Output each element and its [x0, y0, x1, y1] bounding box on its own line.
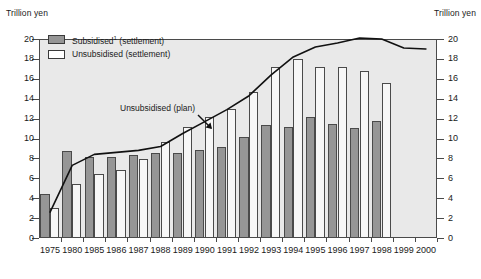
y-axis-label-left: 16 — [10, 74, 34, 83]
y-axis-label-right: 10 — [448, 134, 472, 143]
bar-unsubsidised — [360, 71, 369, 238]
x-axis-tick — [371, 238, 372, 242]
bar-subsidised — [85, 157, 94, 238]
legend-swatch-icon — [48, 35, 65, 44]
bar-subsidised — [328, 124, 337, 238]
bar-unsubsidised — [271, 67, 280, 238]
y-axis-tick-right — [437, 39, 444, 40]
plan-line-annotation: Unsubsidised (plan) — [120, 103, 195, 113]
y-axis-tick-right — [437, 99, 444, 100]
bar-unsubsidised — [139, 159, 148, 238]
y-axis-tick-right — [437, 139, 444, 140]
y-axis-label-left: 6 — [10, 174, 34, 183]
legend-swatch-icon — [48, 50, 65, 59]
y-axis-label-right: 8 — [448, 154, 472, 163]
legend-item-label: Subsidised1 (settlement) — [72, 34, 164, 46]
y-axis-label-left: 0 — [10, 234, 34, 243]
y-axis-label-left: 4 — [10, 194, 34, 203]
bar-subsidised — [151, 153, 160, 238]
bar-subsidised — [107, 157, 116, 238]
x-axis-tick — [127, 238, 128, 242]
bar-unsubsidised — [227, 109, 236, 238]
x-axis-tick — [415, 238, 416, 242]
y-axis-label-right: 20 — [448, 35, 472, 44]
y-axis-label-left: 2 — [10, 214, 34, 223]
y-axis-label-left: 8 — [10, 154, 34, 163]
y-axis-label-right: 6 — [448, 174, 472, 183]
x-axis-tick — [194, 238, 195, 242]
left-axis-unit-label: Trillion yen — [6, 8, 48, 18]
bar-subsidised — [372, 121, 381, 238]
right-axis-unit-label: Trillion yen — [434, 8, 476, 18]
y-axis-tick-right — [437, 158, 444, 159]
y-axis-label-right: 4 — [448, 194, 472, 203]
bar-unsubsidised — [183, 127, 192, 238]
y-axis-label-right: 16 — [448, 74, 472, 83]
bar-subsidised — [217, 147, 226, 238]
x-axis-tick — [216, 238, 217, 242]
x-axis-tick — [437, 238, 438, 242]
x-axis-tick — [238, 238, 239, 242]
x-axis-label: 2000 — [412, 245, 440, 255]
x-axis-tick — [282, 238, 283, 242]
legend-item[interactable]: Unsubsidised (settlement) — [48, 48, 170, 61]
legend-item[interactable]: Subsidised1 (settlement) — [48, 33, 170, 46]
y-axis-tick-right — [437, 178, 444, 179]
bar-subsidised — [284, 127, 293, 238]
legend-item-label: Unsubsidised (settlement) — [72, 50, 170, 59]
y-axis-label-right: 2 — [448, 214, 472, 223]
bar-unsubsidised — [382, 83, 391, 238]
plan-annotation-arrow-icon — [196, 113, 218, 135]
y-axis-label-right: 14 — [448, 94, 472, 103]
bar-unsubsidised — [161, 142, 170, 238]
bar-subsidised — [239, 137, 248, 238]
y-axis-label-left: 20 — [10, 35, 34, 44]
y-axis-tick-right — [437, 218, 444, 219]
y-axis-label-right: 12 — [448, 114, 472, 123]
x-axis-tick — [349, 238, 350, 242]
bar-subsidised — [173, 153, 182, 238]
legend-footnote-marker: 1 — [114, 35, 117, 41]
bar-subsidised — [40, 194, 49, 238]
x-axis-tick — [304, 238, 305, 242]
bar-unsubsidised — [293, 59, 302, 238]
x-axis-tick — [150, 238, 151, 242]
bar-unsubsidised — [72, 184, 81, 238]
bar-unsubsidised — [338, 67, 347, 238]
x-axis-tick — [172, 238, 173, 242]
y-axis-label-left: 18 — [10, 54, 34, 63]
x-axis-tick — [83, 238, 84, 242]
y-axis-tick-right — [437, 238, 444, 239]
y-axis-label-right: 18 — [448, 54, 472, 63]
bar-subsidised — [350, 128, 359, 238]
bar-subsidised — [306, 117, 315, 238]
x-axis-tick — [61, 238, 62, 242]
bar-subsidised — [62, 151, 71, 238]
chart-legend: Subsidised1 (settlement)Unsubsidised (se… — [48, 33, 170, 63]
y-axis-label-left: 10 — [10, 134, 34, 143]
chart-container: Trillion yen Trillion yen 00224466881010… — [0, 0, 481, 279]
y-axis-tick-right — [437, 79, 444, 80]
x-axis-tick — [326, 238, 327, 242]
x-axis-tick — [105, 238, 106, 242]
x-axis-tick — [260, 238, 261, 242]
y-axis-label-left: 12 — [10, 114, 34, 123]
bar-unsubsidised — [50, 208, 59, 238]
x-axis-tick — [393, 238, 394, 242]
bar-subsidised — [195, 150, 204, 238]
bar-subsidised — [129, 155, 138, 238]
bar-unsubsidised — [116, 170, 125, 238]
y-axis-label-right: 0 — [448, 234, 472, 243]
bar-unsubsidised — [249, 92, 258, 238]
y-axis-tick-right — [437, 59, 444, 60]
bar-unsubsidised — [94, 174, 103, 238]
y-axis-tick-right — [437, 198, 444, 199]
y-axis-label-left: 14 — [10, 94, 34, 103]
bar-unsubsidised — [315, 67, 324, 238]
bar-subsidised — [261, 125, 270, 238]
y-axis-tick-right — [437, 119, 444, 120]
